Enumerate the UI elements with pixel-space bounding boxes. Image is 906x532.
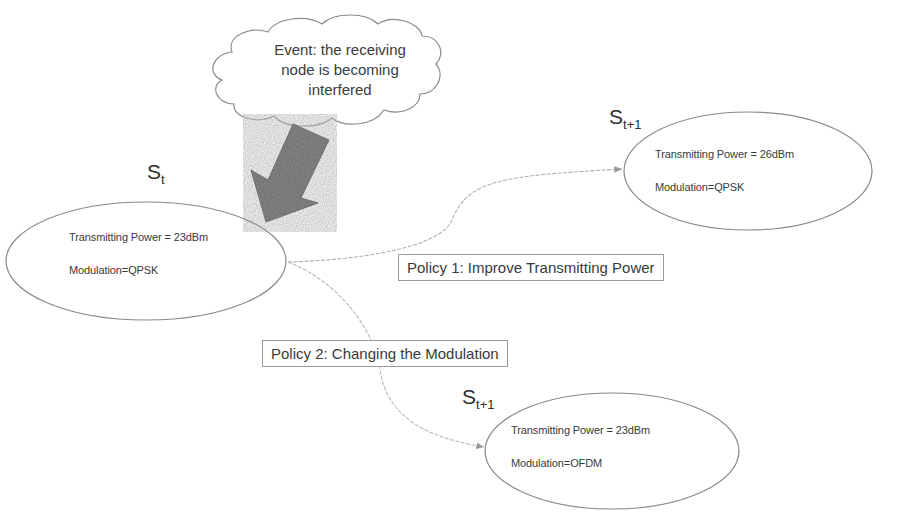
state-current-label: St [147,160,165,187]
event-line-3: interfered [250,80,430,100]
state-next-policy2-label: St+1 [462,385,494,412]
state-current-modulation: Modulation=QPSK [69,264,158,276]
state-next-policy2-modulation: Modulation=OFDM [511,457,602,469]
state-next-policy1-ellipse[interactable] [624,112,872,230]
state-label-sub: t+1 [623,117,641,132]
policy1-label-box: Policy 1: Improve Transmitting Power [398,254,664,281]
policy2-label-box: Policy 2: Changing the Modulation [262,340,508,367]
state-current-power: Transmitting Power = 23dBm [69,231,208,243]
state-next-policy2-ellipse[interactable] [485,393,739,509]
event-arrow-icon [251,124,329,222]
state-next-policy1-power: Transmitting Power = 26dBm [655,148,794,160]
state-label-sub: t+1 [476,397,494,412]
state-label-main: S [609,105,623,128]
state-next-policy1-modulation: Modulation=QPSK [655,181,744,193]
policy1-connector [288,169,622,262]
state-label-main: S [462,385,476,408]
event-line-1: Event: the receiving [250,40,430,60]
state-label-sub: t [161,172,165,187]
state-next-policy1-label: St+1 [609,105,641,132]
state-label-main: S [147,160,161,183]
event-line-2: node is becoming [250,60,430,80]
event-cloud-text: Event: the receiving node is becoming in… [250,40,430,100]
state-next-policy2-power: Transmitting Power = 23dBm [511,424,650,436]
state-current-ellipse[interactable] [6,202,286,320]
